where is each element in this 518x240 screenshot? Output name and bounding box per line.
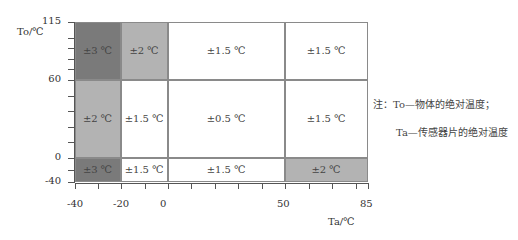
accuracy-cell: ±1.5 ℃ bbox=[121, 80, 168, 158]
y-tick-label: 0 bbox=[55, 151, 61, 162]
cell-value: ±1.5 ℃ bbox=[207, 164, 246, 175]
cell-value: ±1.5 ℃ bbox=[207, 45, 246, 56]
cell-value: ±1.5 ℃ bbox=[307, 45, 346, 56]
x-tick-label: -20 bbox=[113, 198, 129, 209]
accuracy-cell: ±1.5 ℃ bbox=[168, 158, 285, 182]
accuracy-cell: ±1.5 ℃ bbox=[285, 80, 368, 158]
accuracy-cell: ±3 ℃ bbox=[75, 22, 121, 80]
x-tick-label: 50 bbox=[277, 198, 290, 209]
x-axis-line bbox=[75, 183, 368, 184]
note-line-1: 注：To—物体的绝对温度； bbox=[373, 96, 495, 111]
cell-value: ±2 ℃ bbox=[311, 164, 340, 175]
accuracy-cell: ±1.5 ℃ bbox=[121, 158, 168, 182]
cell-value: ±0.5 ℃ bbox=[207, 113, 246, 124]
accuracy-cell: ±2 ℃ bbox=[75, 80, 121, 158]
y-tick-label: 115 bbox=[42, 15, 61, 26]
cell-value: ±3 ℃ bbox=[83, 164, 112, 175]
x-tick bbox=[368, 183, 369, 189]
note-line-2: Ta—传感器片的绝对温度 bbox=[396, 124, 508, 139]
cell-value: ±1.5 ℃ bbox=[125, 164, 164, 175]
cell-value: ±1.5 ℃ bbox=[307, 113, 346, 124]
accuracy-cell: ±1.5 ℃ bbox=[168, 22, 285, 80]
cell-value: ±1.5 ℃ bbox=[125, 113, 164, 124]
y-tick-label: 60 bbox=[48, 73, 61, 84]
cell-value: ±2 ℃ bbox=[129, 45, 158, 56]
y-axis-line bbox=[74, 22, 75, 183]
y-axis-label: To/℃ bbox=[17, 26, 43, 37]
accuracy-cell: ±3 ℃ bbox=[75, 158, 121, 182]
x-tick-label: 0 bbox=[160, 198, 166, 209]
accuracy-cell: ±2 ℃ bbox=[121, 22, 168, 80]
accuracy-cell: ±0.5 ℃ bbox=[168, 80, 285, 158]
x-tick-label: -40 bbox=[67, 198, 83, 209]
x-axis-label: Ta/℃ bbox=[328, 216, 354, 227]
y-tick-label: -40 bbox=[45, 175, 61, 186]
x-tick-label: 85 bbox=[360, 198, 373, 209]
accuracy-cell: ±1.5 ℃ bbox=[285, 22, 368, 80]
cell-value: ±3 ℃ bbox=[83, 45, 112, 56]
cell-value: ±2 ℃ bbox=[83, 113, 112, 124]
accuracy-cell: ±2 ℃ bbox=[285, 158, 368, 182]
